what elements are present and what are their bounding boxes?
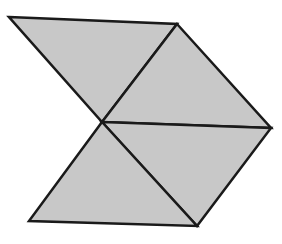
triangle-tessellation-figure [0,0,282,244]
triangles-group [9,17,271,226]
